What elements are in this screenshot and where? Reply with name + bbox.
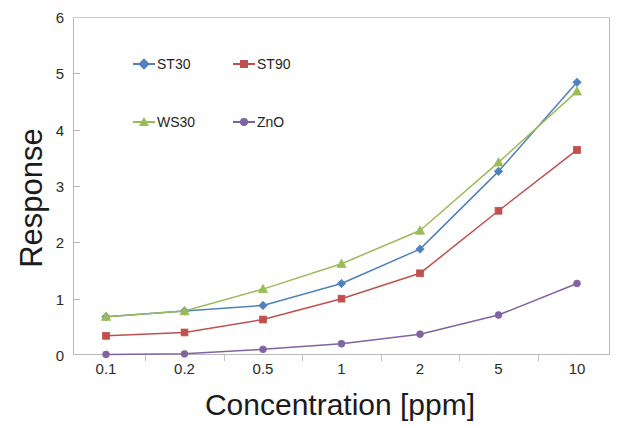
data-point-marker: [495, 312, 502, 319]
legend-label: WS30: [157, 114, 195, 130]
data-point-marker: [338, 295, 345, 302]
data-point-marker: [181, 329, 188, 336]
series-line: [106, 150, 577, 336]
data-point-marker: [417, 270, 424, 277]
legend-entry-ws30[interactable]: WS30: [133, 114, 195, 130]
data-point-marker: [337, 279, 345, 287]
data-point-marker: [338, 340, 345, 347]
legend-marker-diamond-icon: [138, 58, 149, 69]
data-point-marker: [260, 346, 267, 353]
data-point-marker: [103, 351, 110, 358]
data-point-marker: [572, 87, 581, 95]
legend-swatch: [233, 116, 255, 128]
data-point-marker: [574, 147, 581, 154]
y-axis-title: Response: [14, 88, 50, 308]
chart-container: 0123456 0.10.20.512510 ST30ST90WS30ZnO R…: [0, 0, 623, 426]
data-point-marker: [574, 280, 581, 287]
legend-label: ST30: [157, 56, 190, 72]
data-point-marker: [337, 259, 346, 267]
data-point-marker: [103, 332, 110, 339]
chart-legend: ST30ST90WS30ZnO: [133, 56, 323, 130]
data-point-marker: [181, 350, 188, 357]
data-point-marker: [259, 301, 267, 309]
legend-entry-zno[interactable]: ZnO: [233, 114, 284, 130]
legend-label: ST90: [257, 56, 290, 72]
data-point-marker: [417, 331, 424, 338]
data-point-marker: [260, 316, 267, 323]
legend-marker-triangle-icon: [139, 117, 149, 126]
legend-entry-st30[interactable]: ST30: [133, 56, 190, 72]
legend-swatch: [133, 58, 155, 70]
x-axis-title: Concentration [ppm]: [60, 388, 620, 422]
data-point-marker: [495, 207, 502, 214]
legend-entry-st90[interactable]: ST90: [233, 56, 290, 72]
legend-swatch: [133, 116, 155, 128]
legend-marker-circle-icon: [240, 118, 248, 126]
legend-swatch: [233, 58, 255, 70]
legend-marker-square-icon: [240, 60, 248, 68]
legend-label: ZnO: [257, 114, 284, 130]
series-zno: [103, 280, 581, 358]
